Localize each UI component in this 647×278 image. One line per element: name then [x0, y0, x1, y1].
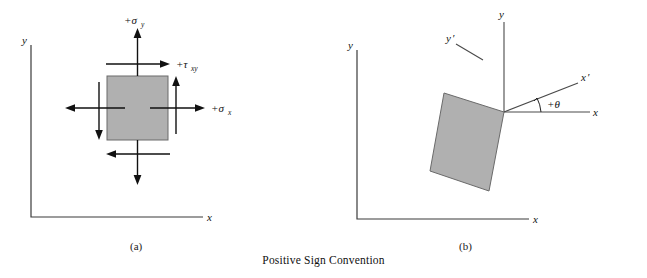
panel-a-tau-left-arrowhead: [95, 130, 103, 140]
panel-b-y-prime-mark: ′: [452, 32, 455, 44]
panel-a-tau-right-arrowhead: [172, 76, 180, 86]
panel-b-x-prime-axis: [504, 83, 578, 112]
figure-positive-sign-convention: y x +σ y +τ xy +σ x: [0, 0, 647, 278]
panel-a-sigma-x-arrowhead-left: [65, 104, 75, 112]
panel-a-tau-xy-text: +τ: [176, 58, 188, 70]
panel-a-sigma-x-text: +σ: [211, 102, 224, 114]
panel-a-sigma-y-label: +σ y: [124, 14, 145, 29]
panel-a-group: y x +σ y +τ xy +σ x: [21, 14, 232, 223]
panel-b-group: y x y y ′ x ′ x +θ: [347, 8, 598, 225]
panel-b-rotated-stress-element: [430, 93, 504, 191]
panel-a-y-axis-label: y: [21, 34, 27, 46]
panel-b-y-axis-label: y: [347, 39, 353, 51]
panel-b-caption: (b): [459, 240, 472, 252]
panel-b-x-prime-mark: ′: [587, 71, 590, 83]
panel-a-tau-top-arrowhead: [160, 60, 170, 68]
panel-a-sigma-x-arrowhead-right: [195, 104, 205, 112]
panel-b-y-prime-axis: [456, 44, 483, 60]
panel-a-sigma-x-subscript: x: [227, 108, 232, 117]
panel-a-caption: (a): [130, 240, 142, 252]
panel-a-sigma-y-arrowhead-up: [134, 28, 142, 38]
panel-b-x-axis-end-label: x: [592, 106, 598, 118]
panel-a-tau-bottom-arrowhead: [106, 150, 116, 158]
panel-b-x-axis-label: x: [532, 213, 538, 225]
panel-a-sigma-x-label: +σ x: [211, 102, 232, 117]
panel-b-local-y-label: y: [498, 8, 504, 20]
figure-caption: Positive Sign Convention: [0, 254, 647, 266]
panel-a-tau-xy-label: +τ xy: [176, 58, 198, 73]
panel-b-x-prime-text: x: [580, 71, 586, 83]
figure-canvas: y x +σ y +τ xy +σ x: [0, 0, 647, 278]
panel-a-x-axis-label: x: [206, 211, 212, 223]
panel-a-sigma-y-subscript: y: [140, 20, 145, 29]
panel-b-theta-label: +θ: [547, 98, 560, 110]
panel-a-sigma-y-arrowhead-down: [134, 175, 142, 185]
panel-b-x-prime-label: x ′: [580, 71, 590, 83]
panel-a-sigma-y-text: +σ: [124, 14, 137, 26]
panel-b-y-prime-text: y: [445, 32, 451, 44]
panel-b-angle-arc: [537, 98, 541, 112]
panel-a-tau-xy-subscript: xy: [190, 64, 198, 73]
panel-b-y-prime-label: y ′: [445, 32, 455, 44]
